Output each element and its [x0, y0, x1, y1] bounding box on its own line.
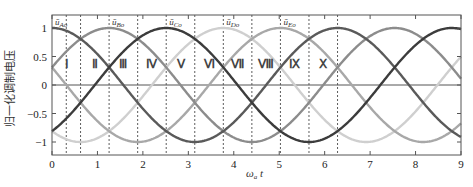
x-tick-label: 9 — [458, 158, 464, 170]
x-tick-label: 1 — [95, 158, 101, 170]
x-tick-label: 0 — [49, 158, 55, 170]
x-tick-label: 2 — [140, 158, 146, 170]
sector-labels: ⅠⅡⅢⅣⅤⅥⅦⅧⅨⅩ — [65, 57, 328, 71]
sector-label: Ⅸ — [289, 57, 301, 71]
modulation-voltage-chart: ⅠⅡⅢⅣⅤⅥⅦⅧⅨⅩ ūAoūBoūCoūDoūEo 0123456789 −1… — [0, 0, 473, 187]
sector-label: Ⅵ — [203, 57, 215, 71]
sector-label: Ⅱ — [92, 57, 98, 71]
x-tick-label: 5 — [276, 158, 282, 170]
y-tick-label: 0 — [42, 79, 48, 91]
x-axis-label: ωa t — [246, 167, 264, 181]
y-tick-label: 0.5 — [33, 51, 47, 63]
x-tick-label: 6 — [322, 158, 328, 170]
y-tick-label: −1 — [35, 136, 47, 148]
y-tick-label: 1 — [42, 22, 48, 34]
sector-label: Ⅷ — [257, 57, 274, 71]
x-tick-label: 3 — [186, 158, 192, 170]
x-tick-label: 4 — [231, 158, 237, 170]
peak-labels: ūAoūBoūCoūDoūEo — [55, 17, 296, 29]
sector-label: Ⅶ — [230, 57, 244, 71]
x-axis-ticks: 0123456789 — [49, 15, 464, 170]
sector-label: Ⅹ — [318, 57, 328, 71]
sector-label: Ⅳ — [146, 57, 158, 71]
y-tick-label: −0.5 — [27, 108, 47, 120]
sector-label: Ⅰ — [65, 57, 69, 71]
x-tick-label: 8 — [413, 158, 419, 170]
sector-label: Ⅲ — [119, 57, 127, 71]
sector-label: Ⅴ — [176, 57, 186, 71]
x-tick-label: 7 — [367, 158, 373, 170]
y-axis-label: 归一化调制电压 — [3, 50, 17, 127]
